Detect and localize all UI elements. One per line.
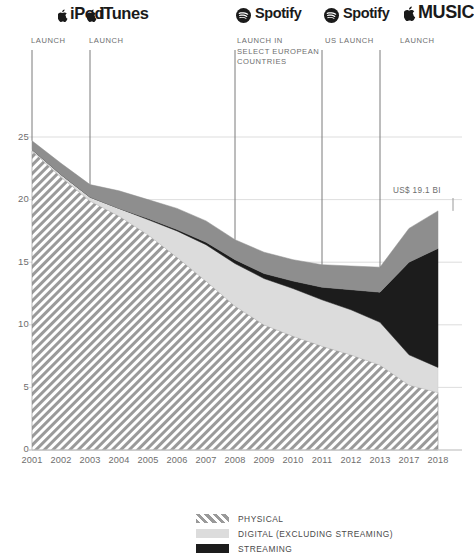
legend-label: PHYSICAL (238, 514, 283, 524)
legend-swatch-streaming (196, 544, 229, 553)
legend-label: STREAMING (238, 544, 292, 554)
legend-label: DIGITAL (EXCLUDING STREAMING) (238, 529, 393, 539)
chart-legend: PHYSICAL DIGITAL (EXCLUDING STREAMING) S… (196, 512, 393, 555)
legend-swatch-physical (196, 514, 229, 523)
legend-item-streaming: STREAMING (196, 542, 393, 555)
legend-swatch-digital (196, 529, 229, 538)
legend-item-physical: PHYSICAL (196, 512, 393, 525)
stacked-area-plot (0, 0, 474, 555)
chart-figure: iPod LAUNCH iTunes LAUNCH Spotify LAUNCH… (0, 0, 474, 555)
legend-item-digital: DIGITAL (EXCLUDING STREAMING) (196, 527, 393, 540)
